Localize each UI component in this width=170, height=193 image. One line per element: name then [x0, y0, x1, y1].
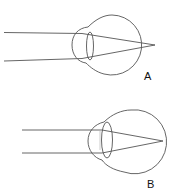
ray-bottom-refracted-b — [102, 141, 163, 153]
label-b: B — [147, 178, 154, 190]
eye-panel-b: B — [22, 110, 167, 190]
eye-panel-a: A — [4, 15, 155, 82]
ray-bottom-incoming-a — [4, 59, 82, 62]
ray-top-refracted-b — [102, 130, 163, 141]
ray-top-incoming-a — [4, 33, 82, 34]
label-a: A — [144, 70, 152, 82]
eyeball-outline-a — [72, 15, 142, 75]
eye-focus-diagram: A B — [0, 0, 170, 193]
lens-a — [87, 32, 94, 60]
